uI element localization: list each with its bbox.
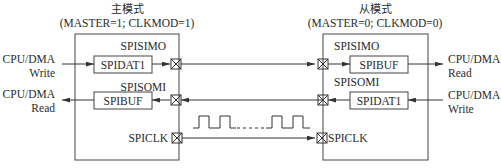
slave-config: (MASTER=0; CLKMOD=0) [308, 17, 443, 30]
clock-waveform-icon [193, 116, 310, 128]
slave-somi-label: SPISOMI [334, 76, 380, 88]
slave-write-source-line2: Write [448, 103, 474, 115]
master-write-source-line2: Write [29, 67, 55, 79]
slave-spibuf-label: SPIBUF [360, 59, 399, 71]
slave-clk-label: SPICLK [328, 132, 368, 144]
master-simo-label: SPISIMO [121, 40, 166, 52]
master-spidat1-label: SPIDAT1 [101, 59, 146, 71]
slave-write-source-line1: CPU/DMA [448, 89, 501, 101]
spi-master-slave-diagram: 主模式 (MASTER=1; CLKMOD=1) SPISIMO SPISOMI… [0, 0, 501, 168]
slave-simo-label: SPISIMO [334, 40, 379, 52]
master-title: 主模式 [111, 3, 144, 16]
slave-title: 从模式 [359, 3, 392, 16]
slave-read-target-line2: Read [448, 67, 472, 79]
master-clk-label: SPICLK [128, 132, 168, 144]
master-read-target-line2: Read [31, 102, 55, 114]
slave-read-target-line1: CPU/DMA [448, 53, 501, 65]
master-read-target-line1: CPU/DMA [3, 88, 56, 100]
master-spibuf-label: SPIBUF [104, 95, 143, 107]
master-write-source-line1: CPU/DMA [3, 53, 56, 65]
master-config: (MASTER=1; CLKMOD=1) [60, 17, 195, 30]
master-somi-label: SPISOMI [121, 81, 167, 93]
slave-spidat1-label: SPIDAT1 [357, 95, 402, 107]
